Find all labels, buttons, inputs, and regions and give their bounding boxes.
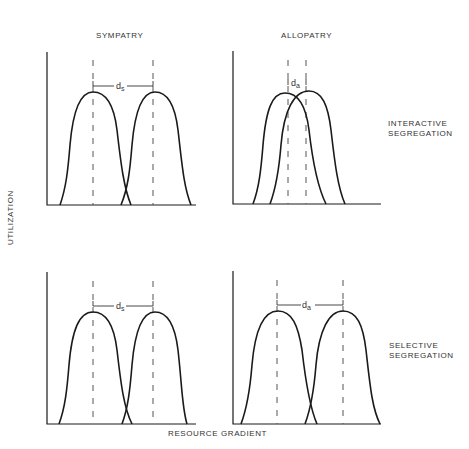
axes <box>233 51 381 204</box>
utilization-curve-2 <box>121 92 191 205</box>
axes <box>47 52 196 205</box>
utilization-curve-1 <box>60 92 131 205</box>
axes <box>233 271 381 424</box>
distance-label-ds-bottom: ds <box>116 301 125 312</box>
niche-segregation-diagram: ds da ds da <box>0 0 469 449</box>
axes <box>47 272 196 424</box>
utilization-curve-2 <box>305 311 380 424</box>
utilization-curve-1 <box>241 311 317 424</box>
panel-top-right <box>233 51 381 204</box>
distance-label-da-top: da <box>291 78 300 89</box>
utilization-curve-1 <box>253 93 326 204</box>
distance-label-da-bottom: da <box>302 300 311 311</box>
utilization-curve-2 <box>122 312 187 424</box>
utilization-curve-1 <box>59 312 132 424</box>
panel-top-left <box>47 52 196 205</box>
panel-bottom-left <box>47 272 196 424</box>
panel-bottom-right <box>233 271 381 424</box>
utilization-curve-2 <box>270 91 345 204</box>
distance-label-ds-top: ds <box>116 81 125 92</box>
